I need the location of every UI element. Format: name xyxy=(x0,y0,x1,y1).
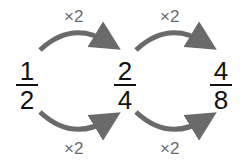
top-arrow-1-icon xyxy=(40,33,108,50)
numerator: 4 xyxy=(214,60,228,82)
top-label-2: ×2 xyxy=(160,8,179,25)
fraction-2: 2 4 xyxy=(113,60,137,111)
denominator: 4 xyxy=(118,89,132,111)
bottom-label-1: ×2 xyxy=(64,140,83,157)
bottom-arrow-2-icon xyxy=(136,112,204,129)
numerator: 2 xyxy=(118,60,132,82)
bottom-label-2: ×2 xyxy=(160,140,179,157)
bottom-arrow-1-icon xyxy=(40,112,108,129)
numerator: 1 xyxy=(20,60,34,82)
denominator: 8 xyxy=(214,89,228,111)
top-arrow-2-icon xyxy=(136,33,204,50)
top-label-1: ×2 xyxy=(64,8,83,25)
fraction-3: 4 8 xyxy=(209,60,233,111)
fraction-1: 1 2 xyxy=(15,60,39,111)
denominator: 2 xyxy=(20,89,34,111)
